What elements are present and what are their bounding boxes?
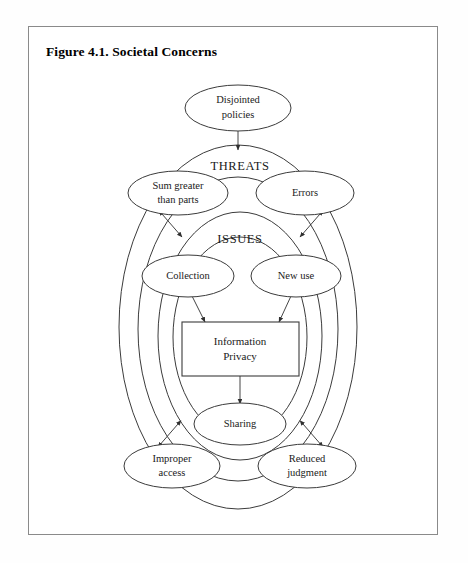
- figure-container: Figure 4.1. Societal Concerns: [0, 0, 468, 563]
- node-disjointed-policies-line1: Disjointed: [216, 94, 260, 105]
- issues-ring-label: ISSUES: [217, 232, 262, 246]
- node-information-privacy-line2: Privacy: [223, 350, 257, 362]
- node-information-privacy[interactable]: Information Privacy: [182, 322, 299, 376]
- node-improper-access-shape: [124, 444, 220, 488]
- connector-newuse-to-center: [279, 296, 291, 322]
- connector-errors-to-issues: [300, 214, 320, 237]
- node-reduced-judgment-line1: Reduced: [289, 453, 326, 464]
- node-disjointed-policies[interactable]: Disjointed policies: [185, 85, 291, 131]
- connector-collection-to-center: [192, 296, 205, 322]
- node-errors-label: Errors: [292, 187, 318, 198]
- node-collection[interactable]: Collection: [142, 255, 234, 297]
- node-collection-label: Collection: [166, 270, 210, 281]
- node-sum-greater-than-parts-line1: Sum greater: [152, 180, 204, 191]
- node-sharing[interactable]: Sharing: [194, 403, 286, 445]
- node-reduced-judgment-line2: judgment: [286, 467, 327, 478]
- node-new-use-label: New use: [278, 270, 315, 281]
- node-errors[interactable]: Errors: [256, 171, 354, 215]
- node-sharing-label: Sharing: [224, 418, 257, 429]
- node-improper-access[interactable]: Improper access: [124, 444, 220, 488]
- node-sum-greater-than-parts-shape: [128, 171, 228, 215]
- node-sum-greater-than-parts[interactable]: Sum greater than parts: [128, 171, 228, 215]
- threats-ring-label: THREATS: [210, 159, 269, 173]
- node-disjointed-policies-line2: policies: [222, 109, 255, 120]
- node-sum-greater-than-parts-line2: than parts: [157, 194, 198, 205]
- node-new-use[interactable]: New use: [251, 255, 341, 297]
- node-improper-access-line1: Improper: [152, 453, 192, 464]
- node-disjointed-policies-shape: [185, 85, 291, 131]
- node-improper-access-line2: access: [159, 467, 186, 478]
- societal-concerns-diagram: THREATS ISSUES Disjointed policies Sum g…: [0, 0, 468, 563]
- node-reduced-judgment-shape: [258, 444, 356, 488]
- node-information-privacy-line1: Information: [214, 335, 267, 347]
- node-reduced-judgment[interactable]: Reduced judgment: [258, 444, 356, 488]
